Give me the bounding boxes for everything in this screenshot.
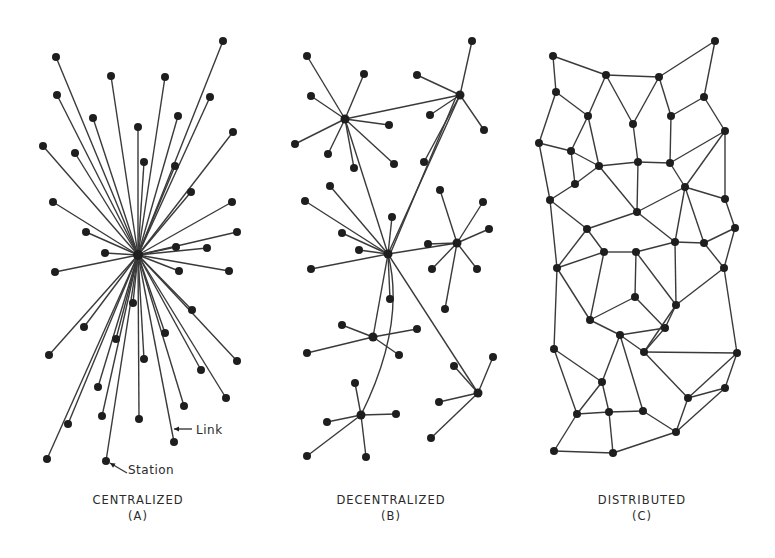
- link: [636, 242, 675, 252]
- caption-title: DECENTRALIZED: [311, 492, 471, 508]
- station-node: [385, 121, 393, 129]
- station-node: [386, 295, 394, 303]
- link: [659, 41, 715, 77]
- link: [620, 335, 643, 411]
- link: [637, 187, 685, 212]
- link: [307, 337, 373, 353]
- link: [635, 252, 636, 297]
- caption-letter: (C): [562, 508, 722, 524]
- station-node: [667, 112, 675, 120]
- link: [638, 162, 670, 163]
- link: [554, 268, 557, 349]
- station-node: [573, 410, 581, 418]
- link: [93, 118, 138, 255]
- link: [424, 95, 460, 162]
- central-hub-node: [133, 250, 143, 260]
- station-node: [140, 158, 148, 166]
- station-node: [197, 366, 205, 374]
- link: [675, 187, 685, 242]
- link: [590, 297, 635, 320]
- link: [311, 96, 345, 119]
- link: [577, 382, 602, 414]
- link: [599, 166, 637, 212]
- link: [557, 252, 604, 268]
- station-node: [171, 162, 179, 170]
- station-node: [175, 267, 183, 275]
- link: [478, 357, 493, 393]
- station-node: [479, 198, 487, 206]
- link: [345, 74, 364, 119]
- station-node: [672, 301, 680, 309]
- link: [704, 228, 735, 243]
- link: [550, 184, 575, 200]
- station-node: [666, 159, 674, 167]
- station-node: [435, 398, 443, 406]
- station-node: [49, 198, 57, 206]
- link: [571, 151, 575, 184]
- station-node: [233, 228, 241, 236]
- station-node: [225, 267, 233, 275]
- network-diagrams: [0, 0, 775, 558]
- station-node: [174, 112, 182, 120]
- hub-node: [341, 115, 350, 124]
- station-node: [600, 248, 608, 256]
- link: [554, 349, 577, 414]
- station-node: [550, 345, 558, 353]
- link: [556, 92, 588, 116]
- station-node: [661, 324, 669, 332]
- station-node: [424, 240, 432, 248]
- link: [588, 116, 599, 166]
- station-node: [82, 228, 90, 236]
- station-node: [228, 198, 236, 206]
- link: [554, 349, 602, 382]
- station-node: [323, 418, 331, 426]
- station-node: [229, 128, 237, 136]
- link: [361, 414, 396, 415]
- link: [590, 252, 604, 320]
- hub-link: [388, 243, 457, 254]
- station-node: [161, 73, 169, 81]
- station-node: [53, 91, 61, 99]
- station-node: [170, 438, 178, 446]
- link: [554, 451, 613, 453]
- station-node: [485, 225, 493, 233]
- caption-decentralized: DECENTRALIZED (B): [311, 492, 471, 524]
- link: [539, 143, 550, 200]
- link: [554, 414, 577, 451]
- station-node: [721, 127, 729, 135]
- station-node: [721, 195, 729, 203]
- link: [47, 255, 138, 459]
- station-node: [52, 53, 60, 61]
- link: [328, 119, 345, 154]
- link: [307, 56, 345, 119]
- station-node: [428, 265, 436, 273]
- station-node: [671, 238, 679, 246]
- station-node: [571, 180, 579, 188]
- link: [138, 255, 139, 419]
- link: [460, 95, 484, 130]
- station-node: [390, 160, 398, 168]
- link: [342, 325, 373, 337]
- station-node: [71, 149, 79, 157]
- caption-centralized: CENTRALIZED (A): [58, 492, 218, 524]
- station-node: [203, 244, 211, 252]
- link: [56, 57, 138, 255]
- link: [460, 41, 472, 95]
- link: [606, 75, 659, 77]
- station-node: [161, 329, 169, 337]
- decentralized-network: [291, 37, 497, 461]
- link: [98, 255, 138, 387]
- station-node: [188, 306, 196, 314]
- hub-node: [369, 333, 378, 342]
- link: [599, 162, 638, 166]
- link: [633, 124, 638, 162]
- link: [454, 366, 478, 393]
- hub-link: [373, 254, 388, 337]
- link: [138, 202, 232, 255]
- link: [587, 212, 637, 229]
- link: [671, 97, 704, 116]
- link: [457, 243, 477, 269]
- station-node: [355, 246, 363, 254]
- station-node: [102, 457, 110, 465]
- link: [670, 131, 725, 163]
